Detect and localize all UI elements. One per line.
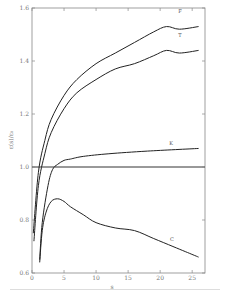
y-tick-label: 1.4 xyxy=(19,57,29,64)
y-tick-label: 1.6 xyxy=(19,4,29,11)
x-tick-label: 5 xyxy=(62,274,66,281)
y-tick-label: 0.8 xyxy=(19,216,29,223)
plot-frame xyxy=(32,8,205,273)
series-f-label: F xyxy=(178,8,182,14)
y-tick-label: 0.6 xyxy=(19,269,29,276)
series-k-label: K xyxy=(169,140,173,146)
x-tick-label: 20 xyxy=(156,274,164,281)
x-tick-label: 25 xyxy=(188,274,196,281)
x-tick-label: 10 xyxy=(92,274,100,281)
series-c-line xyxy=(40,199,199,263)
series-f-line xyxy=(33,27,198,234)
y-tick-label: 1.2 xyxy=(19,110,29,117)
y-tick-label: 1.0 xyxy=(19,163,29,170)
line-chart: 05101520250.60.81.01.21.41.6sε(s)/ε₀FTKC xyxy=(0,0,228,297)
series-t-label: T xyxy=(178,32,182,38)
x-tick-label: 15 xyxy=(124,274,132,281)
y-axis-label: ε(s)/ε₀ xyxy=(7,130,14,149)
series-k-line xyxy=(40,148,199,259)
series-c-label: C xyxy=(170,236,174,242)
series-t-line xyxy=(34,50,199,241)
x-tick-label: 0 xyxy=(30,274,34,281)
figure-caption xyxy=(10,289,220,290)
